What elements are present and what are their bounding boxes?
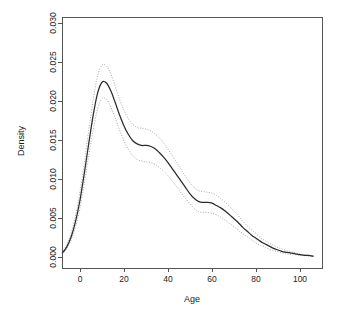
y-tick-label: 0.015 [48, 129, 58, 151]
x-tick-label: 80 [251, 274, 261, 284]
x-tick-label: 0 [78, 274, 83, 284]
x-tick-label: 20 [119, 274, 129, 284]
x-axis-title: Age [184, 294, 200, 304]
plot-canvas: 0.0000.0050.0100.0150.0200.0250.030 0204… [0, 0, 340, 319]
y-tick-label: 0.025 [48, 51, 58, 73]
x-tick-label: 100 [293, 274, 307, 284]
density-plot-figure: 0.0000.0050.0100.0150.0200.0250.030 0204… [0, 0, 340, 319]
y-axis-title: Density [16, 125, 26, 156]
x-tick-label: 60 [207, 274, 217, 284]
y-tick-label: 0.010 [48, 168, 58, 190]
y-tick-label: 0.005 [48, 207, 58, 229]
x-tick-label: 40 [163, 274, 173, 284]
y-tick-label: 0.000 [48, 246, 58, 268]
y-tick-label: 0.020 [48, 90, 58, 112]
figure-background [0, 0, 340, 319]
y-tick-label: 0.030 [48, 12, 58, 34]
